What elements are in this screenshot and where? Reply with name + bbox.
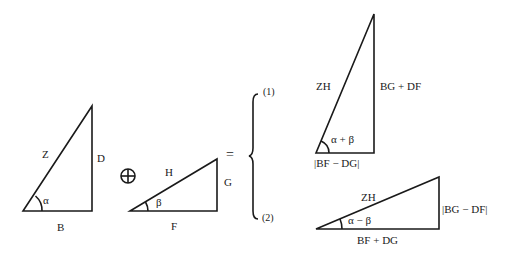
adjacent-bf-plus-dg-label: BF + DG <box>357 234 398 246</box>
circle-plus-icon <box>121 169 135 183</box>
triangle-beta-shape <box>130 159 217 211</box>
opposite-d-label: D <box>97 152 105 164</box>
hypotenuse-z-label: Z <box>42 148 49 160</box>
triangle-alpha-minus-beta: α − β ZH |BG − DF| BF + DG <box>316 177 487 246</box>
triangle-alpha: α Z D B <box>23 106 105 233</box>
angle-sum-arc <box>321 141 329 153</box>
triangle-alpha-plus-beta: α + β ZH BG + DF |BF − DG| <box>314 14 421 169</box>
angle-beta-label: β <box>156 196 162 208</box>
angle-diff-label: α − β <box>348 214 371 226</box>
adjacent-b-label: B <box>57 221 64 233</box>
angle-diff-arc <box>340 219 342 229</box>
triangle-multiplication-diagram: α Z D B β H G F = (1) (2) α + β ZH BG + … <box>0 0 511 256</box>
adjacent-f-label: F <box>171 220 177 232</box>
hypotenuse-zh-label-1: ZH <box>316 80 331 92</box>
equals-sign: = <box>226 147 234 162</box>
triangle-diff-shape <box>316 177 439 229</box>
adjacent-bf-minus-dg-label: |BF − DG| <box>314 157 359 169</box>
hypotenuse-zh-label-2: ZH <box>361 191 376 203</box>
triangle-beta: β H G F <box>130 159 232 232</box>
case-2-label: (2) <box>262 212 274 224</box>
angle-alpha-label: α <box>43 194 49 206</box>
opposite-g-label: G <box>224 176 232 188</box>
angle-sum-label: α + β <box>331 133 354 145</box>
curly-brace <box>249 94 258 219</box>
opposite-bg-plus-df-label: BG + DF <box>380 80 421 92</box>
case-1-label: (1) <box>263 86 275 98</box>
hypotenuse-h-label: H <box>165 166 173 178</box>
angle-beta-arc <box>146 202 149 211</box>
angle-alpha-arc <box>36 196 43 211</box>
opposite-bg-minus-df-label: |BG − DF| <box>442 203 487 215</box>
triangle-alpha-shape <box>23 106 92 211</box>
